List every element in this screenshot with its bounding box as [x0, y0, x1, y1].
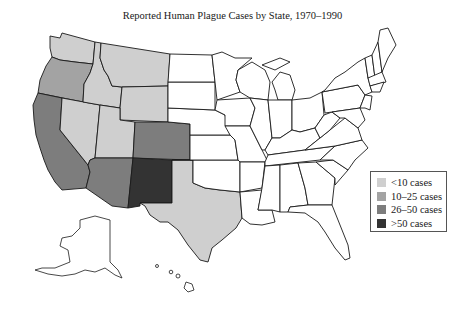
legend-item-lt10: <10 cases — [377, 176, 446, 190]
legend-swatch-lt10 — [377, 178, 386, 187]
state-maine — [378, 28, 396, 72]
legend-item-gt50: >50 cases — [377, 217, 446, 231]
legend-label: <10 cases — [391, 177, 432, 188]
legend-swatch-26-50 — [377, 205, 386, 214]
state-hawaii — [156, 265, 195, 293]
state-arkansas — [240, 162, 265, 192]
state-south-dakota — [168, 82, 215, 110]
us-choropleth-map — [0, 0, 465, 327]
state-wyoming — [120, 86, 168, 122]
state-florida — [288, 205, 350, 260]
state-arizona — [86, 158, 133, 208]
legend-swatch-gt50 — [377, 219, 386, 228]
state-new-mexico — [128, 158, 172, 208]
legend-label: 10–25 cases — [391, 191, 442, 202]
legend: <10 cases 10–25 cases 26–50 cases >50 ca… — [370, 171, 447, 232]
state-kansas — [190, 135, 238, 160]
legend-label: >50 cases — [391, 218, 432, 229]
legend-swatch-10-25 — [377, 192, 386, 201]
state-colorado — [133, 122, 190, 160]
legend-label: 26–50 cases — [391, 204, 442, 215]
state-montana — [100, 43, 170, 87]
legend-item-26-50: 26–50 cases — [377, 203, 446, 217]
state-alaska — [35, 216, 122, 278]
state-north-dakota — [168, 54, 215, 82]
legend-item-10-25: 10–25 cases — [377, 190, 446, 204]
